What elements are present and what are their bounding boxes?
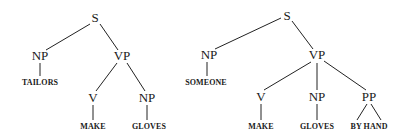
node-np-object: NP	[309, 89, 326, 104]
edge-pp-by	[357, 104, 367, 120]
tree-1-labels: S NP VP V NP TAILORS MAKE GLOVES	[22, 10, 166, 131]
edge-pp-hand	[371, 104, 381, 120]
node-np: NP	[201, 47, 218, 62]
node-s: S	[283, 8, 290, 23]
word-make: MAKE	[248, 122, 273, 131]
word-tailors: TAILORS	[22, 78, 59, 87]
word-gloves: GLOVES	[132, 122, 166, 131]
node-v: V	[88, 90, 98, 105]
edge-s-vp	[100, 24, 118, 50]
word-make: MAKE	[80, 122, 105, 131]
tree-2-labels: S NP VP V NP PP SOMEONE MAKE GLOVES BY H…	[185, 8, 387, 131]
tree-1-edges	[40, 24, 147, 120]
edge-s-np	[46, 24, 90, 50]
edge-vp-v	[264, 62, 311, 90]
edge-vp-pp	[324, 61, 366, 90]
word-by-hand: BY HAND	[350, 122, 387, 131]
node-np-object: NP	[139, 90, 156, 105]
edge-s-vp	[292, 21, 313, 49]
node-vp: VP	[114, 48, 131, 63]
syntax-tree-diagram: S NP VP V NP TAILORS MAKE GLOVES S NP VP…	[0, 0, 404, 140]
tree-2-edges	[207, 18, 381, 120]
node-v: V	[256, 89, 266, 104]
edge-vp-np	[127, 63, 145, 91]
node-s: S	[91, 10, 98, 25]
word-gloves: GLOVES	[300, 122, 334, 131]
edge-s-np	[215, 18, 281, 49]
node-vp: VP	[309, 47, 326, 62]
edge-vp-v	[96, 63, 117, 91]
node-np: NP	[32, 48, 49, 63]
word-someone: SOMEONE	[185, 78, 227, 87]
node-pp: PP	[362, 89, 376, 104]
